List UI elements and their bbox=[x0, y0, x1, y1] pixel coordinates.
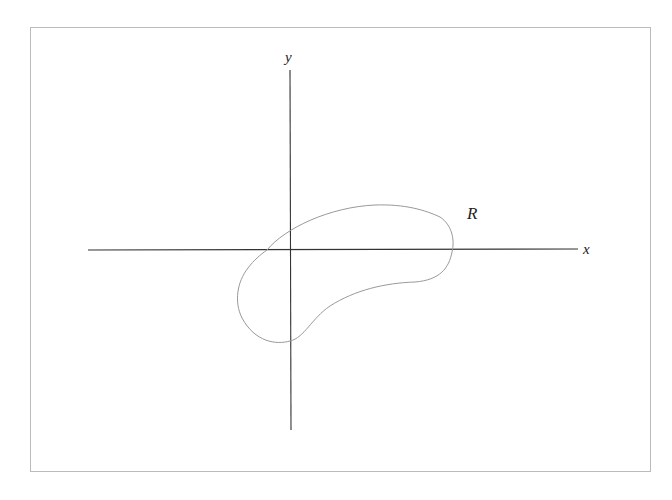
region-r-boundary bbox=[237, 205, 453, 343]
region-label: R bbox=[466, 204, 478, 223]
x-axis bbox=[88, 249, 578, 250]
x-axis-label: x bbox=[582, 241, 590, 257]
y-axis bbox=[290, 70, 291, 430]
diagram-canvas: x y R bbox=[0, 0, 672, 500]
y-axis-label: y bbox=[283, 49, 292, 65]
